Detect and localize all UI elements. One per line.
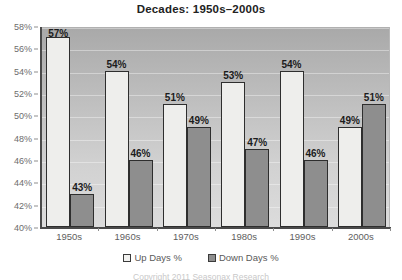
y-axis-tick: [34, 49, 38, 50]
y-axis-labels: 58%56%54%52%50%48%46%44%42%40%: [0, 27, 38, 228]
bar-value-label: 46%: [305, 148, 325, 159]
x-axis-tick-label: 1950s: [56, 231, 82, 242]
x-axis-tick-label: 1970s: [173, 231, 199, 242]
bar-2000s-up: [338, 127, 362, 228]
bar-1990s-down: [304, 160, 328, 227]
y-axis-tick-label: 46%: [14, 156, 32, 166]
y-axis-tick-label: 58%: [14, 22, 32, 32]
y-axis-tick: [34, 116, 38, 117]
bar-value-label: 46%: [130, 148, 150, 159]
bar-value-label: 49%: [189, 115, 209, 126]
y-axis-tick: [34, 205, 38, 206]
bar-value-label: 54%: [106, 59, 126, 70]
bar-1970s-up: [163, 104, 187, 227]
bars-layer: 57%43%54%46%51%49%53%47%54%46%49%51%: [41, 28, 389, 227]
chart-legend: Up Days %Down Days %: [0, 252, 402, 263]
y-axis-tick: [34, 228, 38, 229]
bar-value-label: 49%: [340, 115, 360, 126]
y-axis-tick: [34, 161, 38, 162]
bar-1970s-down: [187, 127, 211, 228]
y-axis-tick: [34, 27, 38, 28]
y-axis-tick-label: 54%: [14, 67, 32, 77]
bar-1960s-down: [129, 160, 153, 227]
x-axis-tick: [157, 228, 158, 231]
y-axis-tick-label: 40%: [14, 223, 32, 233]
bar-1960s-up: [105, 71, 129, 227]
x-axis-tick-label: 1960s: [115, 231, 141, 242]
bar-value-label: 47%: [247, 137, 267, 148]
bar-1950s-down: [70, 194, 94, 228]
legend-swatch-down: [208, 254, 216, 262]
x-axis-tick-label: 1990s: [290, 231, 316, 242]
bar-value-label: 54%: [281, 59, 301, 70]
bar-1980s-down: [245, 149, 269, 227]
bar-1950s-up: [46, 37, 70, 227]
y-axis-tick: [34, 71, 38, 72]
y-axis-tick: [34, 138, 38, 139]
x-axis-tick: [332, 228, 333, 231]
x-axis-tick: [98, 228, 99, 231]
legend-item[interactable]: Up Days %: [123, 252, 182, 263]
bar-1980s-up: [221, 82, 245, 227]
legend-label: Down Days %: [219, 252, 279, 263]
y-axis-tick-label: 48%: [14, 134, 32, 144]
x-axis-tick-label: 2000s: [348, 231, 374, 242]
legend-label: Up Days %: [134, 252, 182, 263]
y-axis-tick: [34, 183, 38, 184]
bar-1990s-up: [280, 71, 304, 227]
y-axis-tick-label: 50%: [14, 111, 32, 121]
legend-swatch-up: [123, 254, 131, 262]
bar-value-label: 53%: [223, 70, 243, 81]
x-axis-tick: [215, 228, 216, 231]
y-axis-tick-label: 44%: [14, 178, 32, 188]
x-axis-tick-label: 1980s: [231, 231, 257, 242]
x-axis-labels: 1950s1960s1970s1980s1990s2000s: [40, 231, 390, 247]
chart-container: Decades: 1950s–2000s 57%43%54%46%51%49%5…: [0, 0, 402, 280]
y-axis-tick-label: 56%: [14, 44, 32, 54]
y-axis-line: [40, 27, 42, 229]
bar-value-label: 43%: [72, 182, 92, 193]
bar-value-label: 57%: [48, 28, 68, 39]
y-axis-tick-label: 42%: [14, 201, 32, 211]
y-axis-tick: [34, 94, 38, 95]
legend-item[interactable]: Down Days %: [208, 252, 279, 263]
x-axis-tick: [390, 228, 391, 231]
x-axis-tick: [273, 228, 274, 231]
bar-2000s-down: [362, 104, 386, 227]
chart-title: Decades: 1950s–2000s: [0, 3, 402, 15]
footer-copyright: Copyright 2011 Seasonax Research: [0, 272, 402, 280]
y-axis-tick-label: 52%: [14, 89, 32, 99]
bar-value-label: 51%: [364, 92, 384, 103]
bar-value-label: 51%: [165, 92, 185, 103]
plot-area: 57%43%54%46%51%49%53%47%54%46%49%51%: [40, 27, 390, 228]
